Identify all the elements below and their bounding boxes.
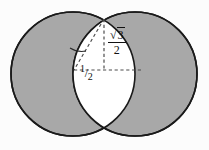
venn-diagram-canvas [0, 0, 209, 150]
figure-root: √3 2 1/2 [0, 0, 209, 150]
